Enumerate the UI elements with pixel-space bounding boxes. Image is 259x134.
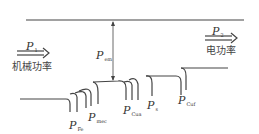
pcua-label: PCua <box>123 101 141 117</box>
s-loss-branch <box>146 76 152 96</box>
pfe-label: PFe <box>69 116 84 132</box>
mechanical-power-label: 机械功率 <box>12 62 52 72</box>
p2-label: P2 <box>212 22 224 38</box>
pem-label: Pem <box>96 46 112 62</box>
fe-loss-branch <box>20 99 70 112</box>
pcuf-label: PCuf <box>178 91 195 107</box>
p1-label: P1 <box>26 37 38 53</box>
ps-label: Ps <box>147 96 158 112</box>
pmec-label: Pmec <box>88 108 107 124</box>
power-flow-diagram: P1 机械功率 P2 电功率 Pem PFe Pmec PCua Ps PCuf <box>0 0 259 134</box>
cuf-loss-branch <box>181 68 186 90</box>
electrical-power-label: 电功率 <box>206 46 236 56</box>
